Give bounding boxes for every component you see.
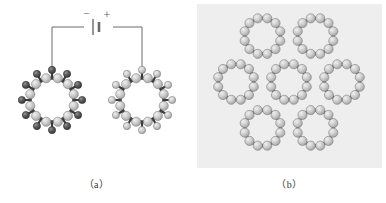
- atom-highlight: [331, 121, 333, 123]
- atom-highlight: [124, 82, 126, 84]
- atom-highlight: [166, 113, 168, 115]
- atom-light-inner: [253, 14, 262, 23]
- atom-highlight: [295, 29, 297, 31]
- atom-highlight: [300, 112, 302, 114]
- atom-light-inner: [306, 141, 315, 150]
- atom-light-inner: [53, 74, 62, 83]
- panel-b: （b）: [193, 0, 386, 203]
- atom-light-inner: [276, 119, 285, 128]
- atom-light-inner: [280, 60, 289, 69]
- atom-light-inner: [263, 49, 272, 58]
- atom-highlight: [71, 103, 73, 105]
- atom-highlight: [326, 47, 328, 49]
- atom-light-inner: [271, 136, 280, 145]
- atom-highlight: [318, 108, 320, 110]
- atom-light-inner: [271, 90, 280, 99]
- atom-light-outer: [153, 70, 160, 77]
- atom-light-inner: [271, 45, 280, 54]
- atom-highlight: [357, 84, 359, 86]
- panel-b-graphic: [193, 0, 386, 203]
- atom-highlight: [28, 103, 30, 105]
- atom-dark-outer: [48, 127, 55, 134]
- atom-highlight: [265, 16, 267, 18]
- atom-light-inner: [324, 90, 333, 99]
- atom-light-inner: [342, 60, 351, 69]
- atom-highlight: [170, 98, 172, 100]
- atom-highlight: [318, 16, 320, 18]
- atom-highlight: [322, 84, 324, 86]
- atom-light-outer: [164, 111, 171, 118]
- ring-bond-layer: [22, 70, 82, 130]
- atom-light-inner: [240, 36, 249, 45]
- atom-highlight: [335, 62, 337, 64]
- atom-highlight: [247, 47, 249, 49]
- atom-light-inner: [302, 73, 311, 82]
- atom-dark-outer: [22, 81, 29, 88]
- atom-highlight: [140, 68, 142, 70]
- atom-highlight: [331, 130, 333, 132]
- atom-highlight: [35, 124, 37, 126]
- atom-light-inner: [298, 45, 307, 54]
- atom-highlight: [273, 138, 275, 140]
- atom-light-inner: [116, 101, 125, 110]
- atom-highlight: [125, 124, 127, 126]
- atom-highlight: [326, 112, 328, 114]
- circuit-wiring: [52, 27, 142, 69]
- atom-highlight: [80, 98, 82, 100]
- atom-light-inner: [316, 14, 325, 23]
- atom-dark-outer: [63, 122, 70, 129]
- atom-highlight: [318, 51, 320, 53]
- atom-highlight: [278, 29, 280, 31]
- atom-light-inner: [302, 82, 311, 91]
- atom-light-inner: [42, 74, 51, 83]
- atom-highlight: [221, 66, 223, 68]
- atom-highlight: [118, 92, 120, 94]
- atom-light-inner: [132, 74, 141, 83]
- atom-light-inner: [271, 18, 280, 27]
- atom-highlight: [28, 92, 30, 94]
- atom-dark-outer: [48, 66, 55, 73]
- atom-highlight: [300, 92, 302, 94]
- atom-light-inner: [316, 106, 325, 115]
- atom-highlight: [265, 108, 267, 110]
- atom-highlight: [255, 143, 257, 145]
- atom-light-inner: [355, 82, 364, 91]
- atom-highlight: [331, 29, 333, 31]
- atom-dark-outer: [33, 70, 40, 77]
- atom-highlight: [278, 130, 280, 132]
- atom-highlight: [344, 62, 346, 64]
- atom-light-inner: [267, 82, 276, 91]
- atom-light-inner: [227, 60, 236, 69]
- atom-light-inner: [306, 14, 315, 23]
- atom-highlight: [134, 76, 136, 78]
- atom-light-inner: [63, 79, 72, 88]
- atom-light-inner: [63, 111, 72, 120]
- atom-highlight: [242, 38, 244, 40]
- atom-dark-outer: [63, 70, 70, 77]
- atom-light-inner: [159, 90, 168, 99]
- atom-highlight: [65, 82, 67, 84]
- atom-light-outer: [153, 122, 160, 129]
- atom-light-inner: [316, 141, 325, 150]
- atom-highlight: [327, 92, 329, 94]
- atom-highlight: [124, 113, 126, 115]
- atom-highlight: [318, 143, 320, 145]
- atom-light-inner: [324, 136, 333, 145]
- atom-light-inner: [253, 49, 262, 58]
- atom-light-inner: [245, 136, 254, 145]
- atom-dark-outer: [18, 96, 25, 103]
- atom-light-inner: [263, 106, 272, 115]
- atom-light-inner: [280, 95, 289, 104]
- atom-light-inner: [306, 106, 315, 115]
- atom-highlight: [155, 72, 157, 74]
- atom-highlight: [229, 97, 231, 99]
- atom-highlight: [44, 76, 46, 78]
- atom-light-inner: [249, 82, 258, 91]
- atom-highlight: [221, 92, 223, 94]
- nanotube-ring-left: [18, 66, 85, 133]
- atom-light-inner: [324, 110, 333, 119]
- atom-highlight: [125, 72, 127, 74]
- atom-light-inner: [289, 60, 298, 69]
- ring-inner-shell: [26, 74, 79, 127]
- atom-light-inner: [293, 128, 302, 137]
